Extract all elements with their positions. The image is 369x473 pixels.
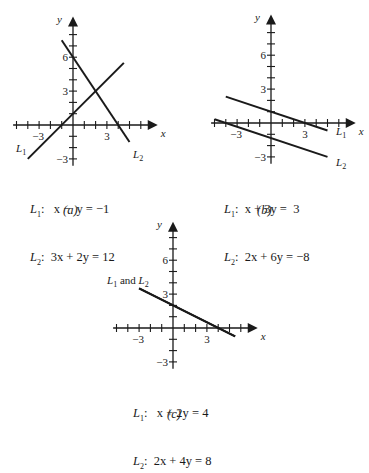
y-tick-label: −3 (254, 151, 266, 163)
x-tick-label: −3 (132, 333, 144, 345)
caption-c: (c) (167, 407, 181, 422)
x-axis-arrow-icon (248, 323, 258, 333)
x-axis-arrow-icon (148, 120, 158, 130)
y-axis-arrow-icon (266, 15, 276, 25)
y-tick-label: −3 (156, 356, 168, 368)
line-label: L2 (132, 148, 143, 163)
caption-b: (b) (257, 203, 272, 218)
x-axis-label: x (260, 330, 266, 342)
equations-a: L1: x − y = −1 L2: 3x + 2y = 12 (30, 174, 115, 283)
line-c-2 (139, 288, 235, 336)
y-axis-arrow-icon (168, 222, 178, 232)
y-tick-label: 3 (163, 288, 169, 300)
equation-c-l2: L2: 2x + 4y = 8 (133, 454, 212, 473)
equations-b: L1: x + 3y = 3 L2: 2x + 6y = −8 (224, 174, 310, 283)
line-label: L2 (335, 156, 346, 171)
x-tick-label: −3 (32, 130, 44, 142)
x-axis-label: x (160, 127, 166, 139)
y-tick-label: −3 (56, 153, 68, 165)
y-axis-label: y (56, 13, 62, 25)
line-label: L1 (15, 142, 26, 157)
graph-b: −3363−3xyL1L2 (211, 11, 364, 171)
equation-a-l2: L2: 3x + 2y = 12 (30, 250, 115, 270)
line-b-1 (226, 97, 328, 131)
y-axis-label: y (156, 218, 162, 230)
x-axis-arrow-icon (346, 118, 356, 128)
y-axis-label: y (254, 11, 260, 23)
x-tick-label: 3 (104, 130, 110, 142)
x-tick-label: −3 (230, 128, 242, 140)
y-axis-arrow-icon (68, 17, 78, 27)
line-label: L1 (335, 125, 346, 140)
equation-b-l2: L2: 2x + 6y = −8 (224, 250, 310, 270)
graph-a: −3363−3xyL1L2 (13, 13, 166, 166)
y-tick-label: 3 (63, 85, 69, 97)
y-tick-label: 6 (261, 49, 267, 61)
y-tick-label: 6 (63, 51, 69, 63)
x-axis-label: x (358, 125, 364, 137)
y-tick-label: 3 (261, 83, 267, 95)
y-tick-label: 6 (163, 254, 169, 266)
x-tick-label: 3 (302, 128, 308, 140)
caption-a: (a) (63, 203, 78, 218)
x-tick-label: 3 (204, 333, 210, 345)
equations-c: L1: x + 2y = 4 L2: 2x + 4y = 8 (133, 378, 212, 473)
